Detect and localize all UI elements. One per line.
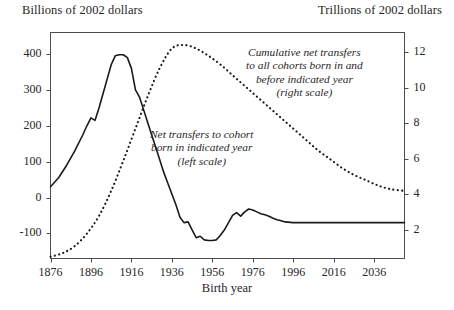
annotation-cohort-line1: Net transfers to cohort bbox=[150, 128, 253, 141]
ytick-right-4: 4 bbox=[414, 186, 420, 201]
annotation-cohort-line3: (left scale) bbox=[150, 155, 253, 168]
ytick-right-2: 8 bbox=[414, 115, 420, 130]
ytick-right-0: 12 bbox=[414, 44, 426, 59]
annotation-cohort-transfers: Net transfers to cohort born in indicate… bbox=[150, 128, 253, 168]
ytick-right-5: 2 bbox=[414, 222, 420, 237]
ytick-left-2: 200 bbox=[0, 118, 42, 133]
ytick-left-0: 400 bbox=[0, 46, 42, 61]
ytick-left-1: 300 bbox=[0, 82, 42, 97]
annotation-cumulative-line4: (right scale) bbox=[246, 86, 363, 99]
annotation-cumulative-line2: to all cohorts born in and bbox=[246, 59, 363, 72]
xtick-8: 2036 bbox=[344, 265, 404, 280]
annotation-cumulative-transfers: Cumulative net transfers to all cohorts … bbox=[246, 46, 363, 100]
ytick-left-4: 0 bbox=[0, 190, 42, 205]
ytick-left-5: -100 bbox=[0, 225, 42, 240]
ytick-left-3: 100 bbox=[0, 154, 42, 169]
annotation-cumulative-line1: Cumulative net transfers bbox=[246, 46, 363, 59]
ytick-right-3: 6 bbox=[414, 151, 420, 166]
annotation-cumulative-line3: before indicated year bbox=[246, 73, 363, 86]
ytick-right-1: 10 bbox=[414, 80, 426, 95]
xaxis-title: Birth year bbox=[0, 281, 454, 296]
annotation-cohort-line2: born in indicated year bbox=[150, 141, 253, 154]
chart-figure: Billions of 2002 dollars Trillions of 20… bbox=[0, 0, 454, 310]
